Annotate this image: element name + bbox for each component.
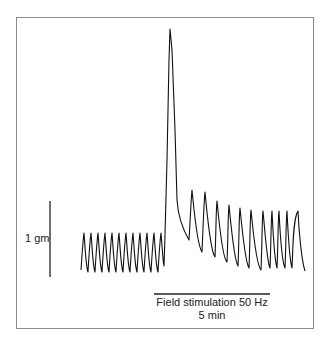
trace-plot [0, 0, 329, 343]
stimulation-label: Field stimulation 50 Hz 5 min [150, 296, 274, 322]
duration-text: 5 min [150, 309, 274, 322]
force-trace [81, 29, 305, 272]
stimulation-text: Field stimulation 50 Hz [150, 296, 274, 309]
scale-bar-label: 1 gm [25, 232, 49, 244]
